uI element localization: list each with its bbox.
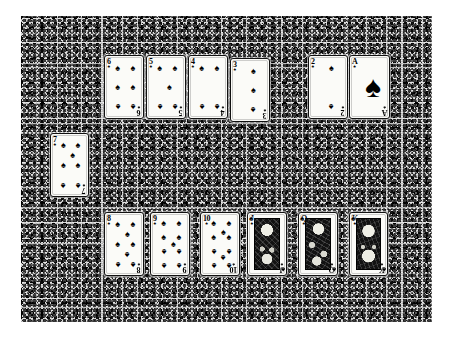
spade-icon: ♠ (115, 240, 120, 249)
pip-grid: ♠♠♠♠♠♠♠♠♠ (160, 219, 180, 269)
spade-icon: ♠ (153, 222, 156, 227)
card-index-tl: 5♠ (149, 58, 153, 69)
card-index-br: 2♠ (341, 105, 345, 116)
spade-icon: ♠ (281, 265, 285, 274)
card-index-tl: 2♠ (311, 58, 315, 69)
spade-icon: ♠ (75, 141, 80, 150)
playing-card-2-spades[interactable]: 2♠2♠♠♠ (308, 55, 348, 119)
spade-icon: ♠ (205, 222, 208, 227)
spade-icon: ♠ (161, 261, 166, 270)
spade-icon: ♠ (353, 65, 356, 70)
spade-icon: ♠ (233, 68, 236, 73)
card-index-br: 7♠ (82, 183, 86, 194)
spade-icon: ♠ (211, 261, 216, 270)
spade-icon: ♠ (226, 219, 231, 228)
pip-grid: ♠♠ (318, 62, 338, 112)
spade-icon: ♠ (176, 247, 181, 256)
spade-icon: ♠ (383, 105, 386, 110)
card-index-br: 6♠ (137, 105, 141, 116)
spade-icon: ♠ (232, 262, 235, 267)
spade-icon: ♠ (184, 262, 187, 267)
playing-card-6-spades[interactable]: 6♠6♠♠♠♠♠♠♠ (104, 55, 144, 119)
spade-icon: ♠ (171, 240, 176, 249)
pip-grid: ♠♠♠♠♠♠ (114, 62, 134, 112)
pip-grid: ♠♠♠♠♠♠♠ (60, 140, 79, 190)
spade-icon: ♠ (199, 102, 204, 111)
playing-card-5-spades[interactable]: 5♠5♠♠♠♠♠♠ (146, 55, 186, 119)
spade-icon: ♠ (329, 64, 334, 73)
pip-grid: ♠ (359, 62, 380, 112)
spade-icon: ♠ (130, 102, 135, 111)
spade-icon: ♠ (130, 64, 135, 73)
playing-card-7-spades[interactable]: 7♠7♠♠♠♠♠♠♠♠ (50, 133, 89, 197)
spade-icon: ♠ (125, 250, 130, 259)
spade-icon: ♠ (382, 265, 386, 274)
playing-card-8-spades[interactable]: 8♠8♠♠♠♠♠♠♠♠♠ (104, 212, 144, 276)
spade-icon: ♠ (107, 65, 110, 70)
card-index-tl: 8♠ (107, 215, 111, 226)
spade-icon: ♠ (214, 102, 219, 111)
spade-icon: ♠ (130, 240, 135, 249)
card-index-tl: 4♠ (191, 58, 195, 69)
spade-icon: ♠ (115, 260, 120, 269)
spade-icon: ♠ (115, 83, 120, 92)
spade-icon: ♠ (176, 219, 181, 228)
spade-icon: ♠ (157, 102, 162, 111)
playing-card-10-spades[interactable]: 10♠10♠♠♠♠♠♠♠♠♠♠♠ (200, 212, 240, 276)
spade-icon: ♠ (53, 143, 56, 148)
spade-icon: ♠ (214, 64, 219, 73)
spade-icon: ♠ (161, 219, 166, 228)
spade-icon: ♠ (180, 105, 183, 110)
spade-icon: ♠ (300, 214, 304, 223)
spade-icon: ♠ (222, 105, 225, 110)
court-card-illustration (305, 218, 331, 270)
spade-icon: ♠ (75, 181, 80, 190)
spade-icon: ♠ (329, 102, 334, 111)
court-card-illustration (254, 218, 280, 270)
playing-card-3-spades[interactable]: 3♠3♠♠♠♠ (230, 58, 270, 122)
spade-icon: ♠ (251, 67, 256, 76)
spade-icon: ♠ (61, 181, 66, 190)
spade-icon: ♠ (211, 219, 216, 228)
spade-icon: ♠ (221, 252, 226, 261)
spade-icon: ♠ (149, 65, 152, 70)
spade-icon: ♠ (115, 64, 120, 73)
spade-icon: ♠ (311, 65, 314, 70)
card-index-tl: 9♠ (153, 215, 157, 226)
playing-card-a-spades[interactable]: A♠A♠♠ (349, 55, 390, 119)
spade-icon: ♠ (199, 64, 204, 73)
spade-icon: ♠ (61, 141, 66, 150)
card-index-tl: 6♠ (107, 58, 111, 69)
spade-icon: ♠ (70, 151, 75, 160)
spade-icon: ♠ (226, 261, 231, 270)
spade-icon: ♠ (176, 233, 181, 242)
playing-card-j-spades[interactable]: J♠J♠♠♠ (247, 212, 287, 276)
pip-grid: ♠♠♠♠♠♠♠♠♠♠ (210, 219, 230, 269)
spade-icon: ♠ (75, 161, 80, 170)
card-index-br: 5♠ (179, 105, 183, 116)
playing-card-4-spades[interactable]: 4♠4♠♠♠♠♠ (188, 55, 228, 119)
court-card-illustration (356, 218, 381, 270)
pip-grid: ♠♠♠♠♠ (156, 62, 176, 112)
spade-icon: ♠ (138, 105, 141, 110)
spade-icon: ♠ (251, 105, 256, 114)
card-index-tl: A♠ (352, 58, 357, 69)
card-index-br: 8♠ (137, 262, 141, 273)
card-index-tl: 3♠ (233, 61, 237, 72)
spade-icon: ♠ (161, 233, 166, 242)
playing-card-q-spades[interactable]: Q♠Q♠♠♠ (298, 212, 338, 276)
card-index-br: 4♠ (221, 105, 225, 116)
spade-icon: ♠ (157, 64, 162, 73)
spade-icon: ♠ (172, 102, 177, 111)
spade-icon: ♠ (191, 65, 194, 70)
pip-grid: ♠♠♠ (240, 65, 260, 115)
spade-icon: ♠ (138, 262, 141, 267)
spade-icon: ♠ (172, 64, 177, 73)
spade-icon: ♠ (264, 108, 267, 113)
playing-card-9-spades[interactable]: 9♠9♠♠♠♠♠♠♠♠♠♠ (150, 212, 190, 276)
playing-card-k-spades[interactable]: K♠K♠♠♠ (349, 212, 388, 276)
card-index-br: A♠ (382, 105, 387, 116)
spade-icon: ♠ (161, 247, 166, 256)
spade-icon: ♠ (130, 260, 135, 269)
spade-icon: ♠ (115, 220, 120, 229)
